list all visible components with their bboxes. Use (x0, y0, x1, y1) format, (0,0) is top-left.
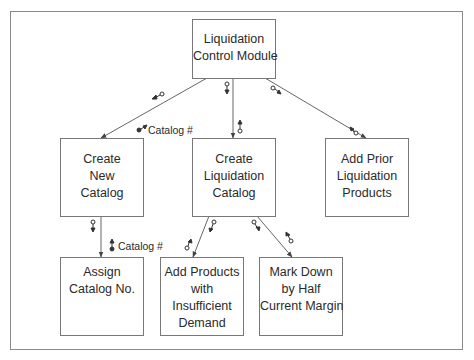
module-label: Control Module (193, 48, 275, 65)
module-label: by Half (260, 281, 342, 298)
data-couple-icon (286, 232, 293, 243)
data-couple-icon (225, 82, 229, 94)
data-couple-icon (185, 239, 192, 250)
module-mark-down-half-margin[interactable]: Mark Down by Half Current Margin (259, 257, 343, 336)
module-assign-catalog-no[interactable]: Assign Catalog No. (60, 257, 144, 336)
module-label: Catalog (193, 185, 275, 202)
module-label: Products (326, 185, 408, 202)
flag-couple-icon (137, 125, 147, 132)
module-add-prior-liquidation-products[interactable]: Add Prior Liquidation Products (325, 138, 409, 217)
data-couple-icon (271, 86, 281, 94)
data-couple-icon (91, 220, 95, 232)
module-label: Liquidation (193, 168, 275, 185)
module-add-products-insufficient-demand[interactable]: Add Products with Insufficient Demand (160, 257, 244, 336)
module-label: New (61, 168, 143, 185)
module-liquidation-control[interactable]: Liquidation Control Module (192, 19, 276, 79)
module-label: Catalog No. (61, 281, 143, 298)
module-label: Catalog (61, 185, 143, 202)
couple-label-catalog-number: Catalog # (118, 240, 163, 252)
module-label: Add Products (161, 264, 243, 281)
module-label: Insufficient (161, 298, 243, 315)
module-label: Liquidation (193, 31, 275, 48)
module-create-new-catalog[interactable]: Create New Catalog (60, 138, 144, 217)
data-couple-icon (209, 220, 216, 232)
link-create-liq-to-add-products (193, 216, 209, 257)
data-couple-icon (252, 220, 260, 231)
module-label: Current Margin (260, 298, 342, 315)
flag-couple-icon (110, 239, 114, 251)
module-label: Create (193, 151, 275, 168)
module-label: Liquidation (326, 168, 408, 185)
module-label: Demand (161, 315, 243, 332)
module-label: Add Prior (326, 151, 408, 168)
module-label: Mark Down (260, 264, 342, 281)
module-label: Create (61, 151, 143, 168)
link-create-liq-to-mark-down (257, 216, 292, 257)
module-create-liquidation-catalog[interactable]: Create Liquidation Catalog (192, 138, 276, 217)
data-couple-icon (238, 120, 242, 133)
data-couple-icon (152, 92, 164, 99)
module-label: with (161, 281, 243, 298)
module-label: Assign (61, 264, 143, 281)
couple-label-catalog-number: Catalog # (148, 124, 193, 136)
